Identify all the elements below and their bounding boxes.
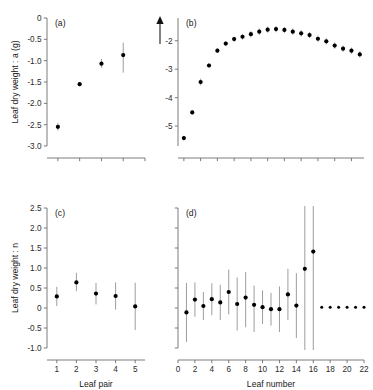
panel-b-data-point: [299, 31, 303, 35]
panel-tag-b: (b): [186, 18, 197, 28]
panel-a-y-tick-label: -2.5: [27, 121, 42, 130]
panel-d-data-point: [294, 304, 298, 308]
panel-d-x-tick-label: 16: [309, 365, 319, 374]
panel-b: -2-3-4-5(b): [165, 18, 364, 161]
panel-a-y-tick-label: -3.0: [27, 142, 42, 151]
panel-b-data-point: [182, 136, 186, 140]
panel-b-data-point: [257, 30, 261, 34]
panel-b-data-point: [215, 49, 219, 53]
panel-c-y-tick-label: -1.0: [27, 344, 42, 353]
figure-root: 0-0.5-1.0-1.5-2.0-2.5-3.0(a)-2-3-4-5(b)2…: [0, 0, 373, 390]
panel-a-data-point: [121, 53, 125, 57]
panel-c-x-tick-label: 5: [133, 365, 138, 374]
panel-tag-d: (d): [186, 208, 197, 218]
panel-b-data-point: [358, 52, 362, 56]
panel-b-data-point: [249, 32, 253, 36]
panel-c-y-tick-label: 1.0: [30, 264, 42, 273]
panel-d-data-point: [235, 302, 239, 306]
panel-c-data-point: [94, 292, 98, 296]
panel-d-data-point: [244, 296, 248, 300]
panel-d-x-tick-label: 12: [275, 365, 285, 374]
arrow-head: [156, 16, 163, 24]
panel-b-data-point: [307, 33, 311, 37]
panel-c-data-point: [133, 304, 137, 308]
panel-d-data-point: [354, 306, 357, 309]
panel-b-data-point: [224, 42, 228, 46]
panel-d-data-point: [277, 307, 281, 311]
panel-c-x-axis-title: Leaf pair: [79, 379, 113, 389]
panel-a-y-tick-label: 0: [37, 14, 42, 23]
panel-tag-a: (a): [55, 18, 66, 28]
panel-d-data-point: [269, 307, 273, 311]
panel-b-data-point: [190, 110, 194, 114]
panel-c-y-tick-label: 0: [37, 304, 42, 313]
panel-d-data-point: [218, 300, 222, 304]
panel-b-y-tick-label: -3: [165, 65, 173, 74]
panel-d-data-point: [337, 306, 340, 309]
panel-c-y-tick-label: -0.5: [27, 324, 42, 333]
panel-b-data-point: [240, 35, 244, 39]
panel-d-data-point: [329, 306, 332, 309]
panel-d-data-point: [363, 306, 366, 309]
panel-d-data-point: [303, 267, 307, 271]
panel-d-x-tick-label: 10: [258, 365, 268, 374]
panel-d-data-point: [252, 303, 256, 307]
panel-c-y-tick-label: 0.5: [30, 284, 42, 293]
panel-d-data-point: [320, 306, 323, 309]
panel-d-x-tick-label: 6: [226, 365, 231, 374]
panel-b-data-point: [232, 37, 236, 41]
panel-b-data-point: [349, 49, 353, 53]
panel-d-data-point: [227, 290, 231, 294]
panel-d-data-point: [201, 304, 205, 308]
bottom-row-y-axis-title: Leaf dry weight : n: [10, 243, 20, 313]
panel-d-x-tick-label: 14: [292, 365, 302, 374]
panel-c-y-tick-label: 1.5: [30, 244, 42, 253]
panel-a-data-point: [78, 82, 82, 86]
panel-d-x-axis-title: Leaf number: [247, 379, 295, 389]
panel-a-y-tick-label: -0.5: [27, 35, 42, 44]
panel-d-x-tick-label: 22: [359, 365, 369, 374]
panel-d-data-point: [286, 292, 290, 296]
panel-c-y-tick-label: 2.0: [30, 224, 42, 233]
panel-b-data-point: [333, 43, 337, 47]
panel-b-y-tick-label: -4: [165, 94, 173, 103]
panel-c-x-tick-label: 1: [55, 365, 60, 374]
panel-tag-c: (c): [55, 208, 65, 218]
panel-b-data-point: [316, 37, 320, 41]
panel-b-data-point: [199, 80, 203, 84]
panel-d-data-point: [193, 298, 197, 302]
panel-b-data-point: [282, 28, 286, 32]
panel-b-y-tick-label: -5: [165, 122, 173, 131]
panel-c-x-tick-label: 3: [94, 365, 99, 374]
panel-d: 0246810121416182022(d)Leaf number: [175, 206, 369, 389]
panel-a-data-point: [56, 125, 60, 129]
panel-a: 0-0.5-1.0-1.5-2.0-2.5-3.0(a): [27, 14, 145, 161]
panel-c-data-point: [114, 294, 118, 298]
panel-b-data-point: [324, 39, 328, 43]
panel-d-x-tick-label: 8: [243, 365, 248, 374]
panel-d-x-tick-label: 2: [193, 365, 198, 374]
panel-d-data-point: [184, 310, 188, 314]
four-panel-scatter-figure: 0-0.5-1.0-1.5-2.0-2.5-3.0(a)-2-3-4-5(b)2…: [0, 0, 373, 390]
panel-a-y-tick-label: -2.0: [27, 99, 42, 108]
panel-b-data-point: [266, 28, 270, 32]
panel-c-x-tick-label: 4: [113, 365, 118, 374]
panel-d-x-tick-label: 0: [176, 365, 181, 374]
panel-d-data-point: [346, 306, 349, 309]
panel-c-x-tick-label: 2: [74, 365, 79, 374]
panel-c: 2.52.01.51.00.50-0.5-1.012345(c)Leaf pai…: [27, 204, 145, 389]
panel-d-data-point: [260, 305, 264, 309]
panel-a-y-tick-label: -1.5: [27, 78, 42, 87]
panel-c-data-point: [74, 280, 78, 284]
panel-c-y-tick-label: 2.5: [30, 204, 42, 213]
panel-a-y-tick-label: -1.0: [27, 57, 42, 66]
top-row-y-axis-title: Leaf dry weight : a (g): [10, 40, 20, 123]
panel-a-data-point: [99, 62, 103, 66]
up-arrow-icon: [156, 16, 163, 44]
panel-c-data-point: [55, 294, 59, 298]
panel-d-data-point: [210, 297, 214, 301]
panel-d-x-tick-label: 18: [326, 365, 336, 374]
panel-d-data-point: [311, 250, 315, 254]
panel-b-data-point: [274, 27, 278, 31]
panel-d-x-tick-label: 4: [210, 365, 215, 374]
